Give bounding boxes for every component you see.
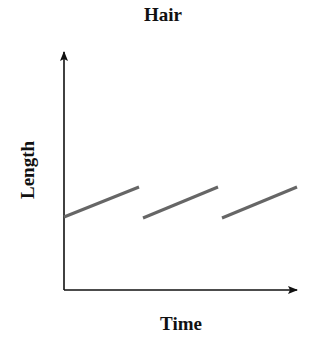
growth-segment-1	[64, 187, 139, 217]
growth-segment-2	[143, 187, 218, 218]
growth-segment-3	[222, 187, 297, 218]
x-axis-label: Time	[64, 313, 298, 335]
y-axis-label: Length	[17, 141, 39, 199]
plot-area	[0, 0, 326, 342]
